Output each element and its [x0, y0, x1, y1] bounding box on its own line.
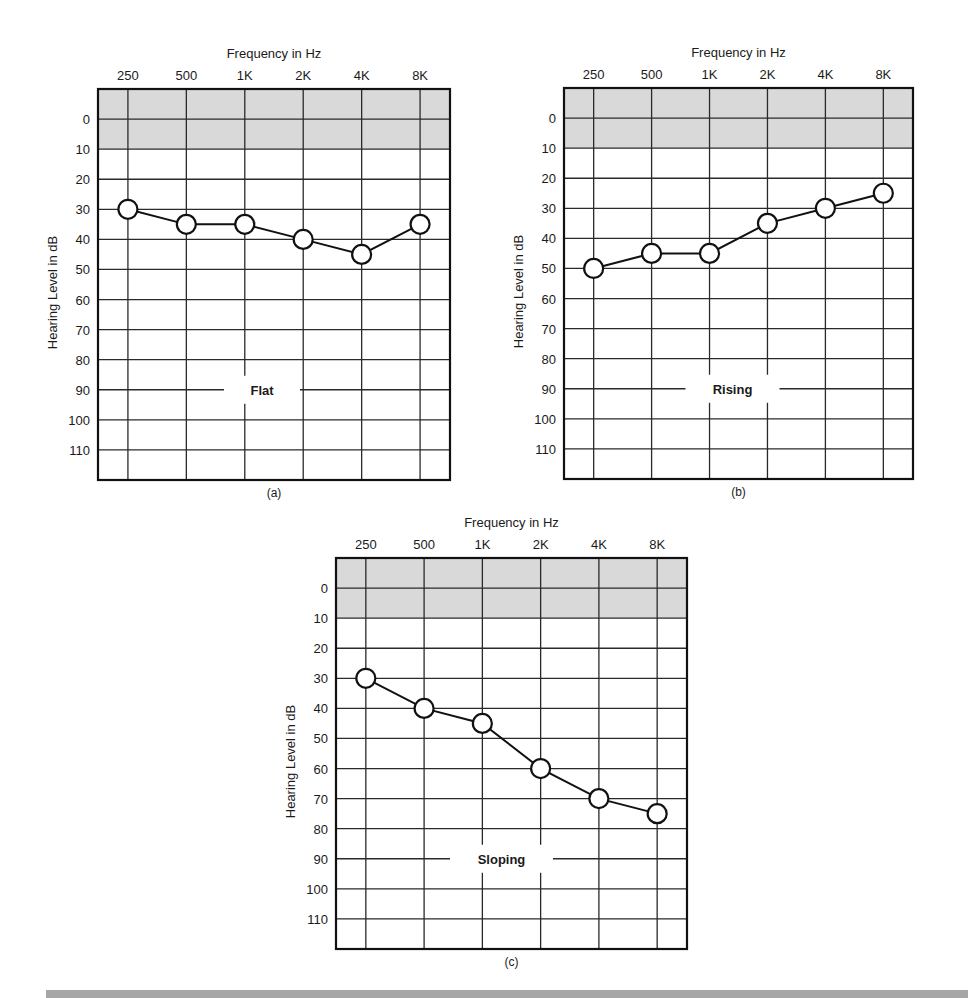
y-tick-label: 20 — [314, 641, 328, 656]
y-axis-title: Hearing Level in dB — [283, 705, 298, 818]
audiogram-panel-c: 01020304050607080901001102505001K2K4K8KS… — [0, 0, 968, 980]
y-tick-label: 100 — [306, 882, 328, 897]
threshold-marker — [473, 714, 492, 733]
threshold-marker — [531, 759, 550, 778]
x-axis-title: Frequency in Hz — [464, 515, 559, 530]
x-tick-label: 2K — [533, 537, 549, 552]
y-tick-label: 50 — [314, 731, 328, 746]
x-tick-label: 500 — [413, 537, 435, 552]
x-tick-label: 4K — [591, 537, 607, 552]
y-tick-label: 80 — [314, 822, 328, 837]
threshold-marker — [648, 804, 667, 823]
threshold-marker — [415, 699, 434, 718]
y-tick-label: 110 — [307, 912, 328, 927]
curve-type-label: Sloping — [478, 852, 526, 867]
y-tick-label: 30 — [314, 671, 328, 686]
x-tick-label: 250 — [355, 537, 377, 552]
x-tick-label: 1K — [474, 537, 490, 552]
threshold-line — [366, 678, 657, 813]
page-footer-bar — [46, 990, 968, 998]
y-tick-label: 10 — [314, 611, 328, 626]
audiogram-chart-c: 01020304050607080901001102505001K2K4K8KS… — [0, 0, 968, 980]
panel-label: (c) — [505, 955, 519, 969]
y-tick-label: 0 — [321, 581, 328, 596]
y-tick-label: 60 — [314, 762, 328, 777]
x-tick-label: 8K — [649, 537, 665, 552]
y-tick-label: 70 — [314, 792, 328, 807]
threshold-marker — [356, 669, 375, 688]
threshold-marker — [589, 789, 608, 808]
y-tick-label: 90 — [314, 852, 328, 867]
y-tick-label: 40 — [314, 701, 328, 716]
